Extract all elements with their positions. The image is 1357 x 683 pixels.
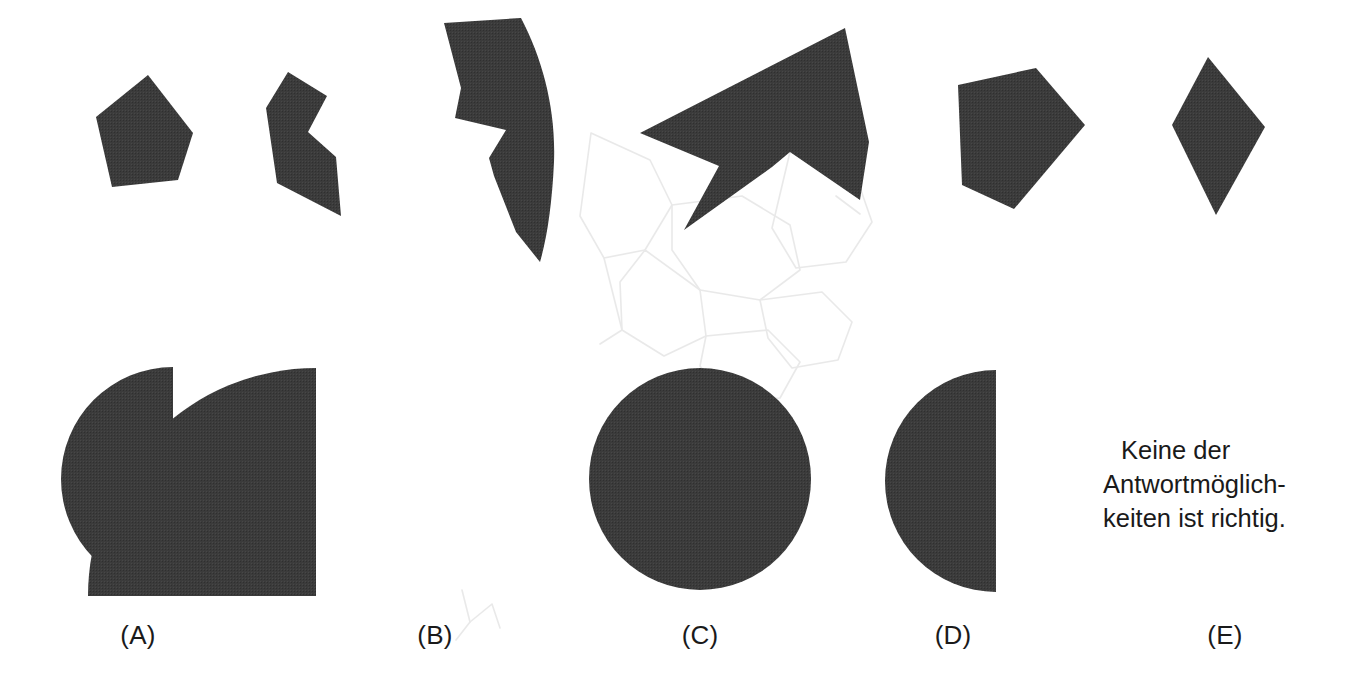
none-of-the-above-line-1: Keine der <box>1103 434 1343 468</box>
answer-figure-a <box>61 367 285 591</box>
answer-label-e[interactable]: (E) <box>1180 622 1270 648</box>
piece-3-crescent-fragment <box>444 18 554 262</box>
answer-label-c[interactable]: (C) <box>655 622 745 648</box>
pencil-sketch-marks <box>0 0 1357 683</box>
test-item-page: Keine der Antwortmöglich- keiten ist ric… <box>0 0 1357 683</box>
answer-figure-b <box>88 368 316 596</box>
none-of-the-above-line-3: keiten ist richtig. <box>1103 502 1343 536</box>
answer-label-b[interactable]: (B) <box>390 622 480 648</box>
answer-figures-row <box>0 0 1357 683</box>
none-of-the-above-line-2: Antwortmöglich- <box>1103 468 1343 502</box>
none-of-the-above-text: Keine der Antwortmöglich- keiten ist ric… <box>1103 434 1343 536</box>
piece-4-arrow-fragment <box>640 28 869 230</box>
answer-figure-d <box>885 370 996 592</box>
piece-1-pentagon-fragment <box>96 75 193 187</box>
puzzle-pieces-row <box>0 0 1357 683</box>
piece-6-kite-fragment <box>1172 57 1265 215</box>
answer-label-a[interactable]: (A) <box>93 622 183 648</box>
answer-figure-c <box>589 368 811 590</box>
answer-label-d[interactable]: (D) <box>908 622 998 648</box>
piece-5-pentagon-right-fragment <box>958 68 1085 209</box>
piece-2-notched-fragment <box>266 72 341 216</box>
